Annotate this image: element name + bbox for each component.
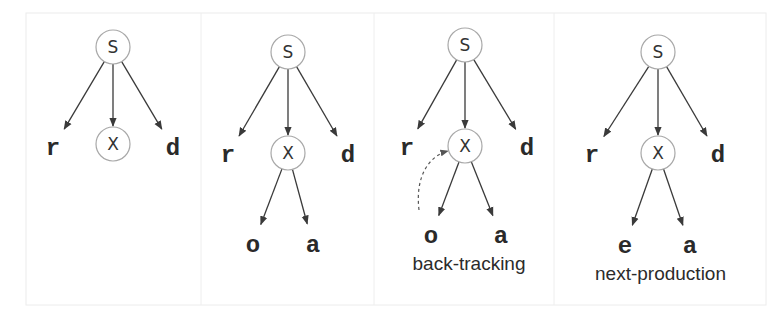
node-label-x: X	[282, 143, 294, 163]
node-label-s: S	[460, 35, 471, 55]
tree-panel-step4: SrXdeanext-production	[585, 35, 726, 284]
node-label-x: X	[459, 136, 471, 156]
tree-panel-step2: SrXdoa	[221, 35, 355, 259]
terminal-a: a	[494, 223, 508, 250]
node-label-x: X	[107, 134, 119, 154]
caption-step3: back-tracking	[413, 253, 526, 274]
terminal-a: a	[683, 233, 697, 260]
tree-panel-step1: SrXd	[46, 30, 180, 162]
tree-panel-step3: SrXdoaback-tracking	[400, 28, 534, 274]
terminal-a: a	[306, 232, 320, 259]
tree-edge-arrow	[239, 67, 279, 136]
tree-edge-arrow	[664, 169, 683, 225]
tree-edge-arrow	[439, 162, 459, 216]
terminal-d: d	[166, 135, 180, 162]
terminal-r: r	[221, 142, 235, 169]
terminal-r: r	[46, 135, 60, 162]
tree-edge-arrow	[604, 66, 649, 136]
node-label-s: S	[653, 42, 664, 62]
terminal-r: r	[585, 142, 599, 169]
node-label-s: S	[283, 42, 294, 62]
tree-edge-arrow	[261, 169, 282, 225]
tree-edge-arrow	[667, 67, 707, 136]
terminal-d: d	[520, 135, 534, 162]
tree-edge-arrow	[64, 62, 104, 129]
terminal-o: o	[424, 223, 438, 250]
tree-edge-arrow	[474, 60, 516, 130]
parse-tree-diagram: SrXdSrXdoaSrXdoaback-trackingSrXdeanext-…	[0, 0, 778, 314]
caption-step4: next-production	[595, 263, 726, 284]
tree-edge-arrow	[418, 60, 457, 129]
terminal-r: r	[400, 135, 414, 162]
terminal-d: d	[711, 142, 725, 169]
node-label-s: S	[108, 37, 119, 57]
tree-edge-arrow	[292, 169, 307, 223]
terminal-o: o	[246, 232, 260, 259]
tree-edge-arrow	[632, 169, 652, 225]
terminal-e: e	[618, 233, 632, 260]
terminal-d: d	[341, 142, 355, 169]
node-label-x: X	[652, 143, 664, 163]
tree-edge-arrow	[297, 67, 337, 136]
tree-edge-arrow	[471, 162, 493, 216]
tree-edge-arrow	[122, 62, 162, 129]
